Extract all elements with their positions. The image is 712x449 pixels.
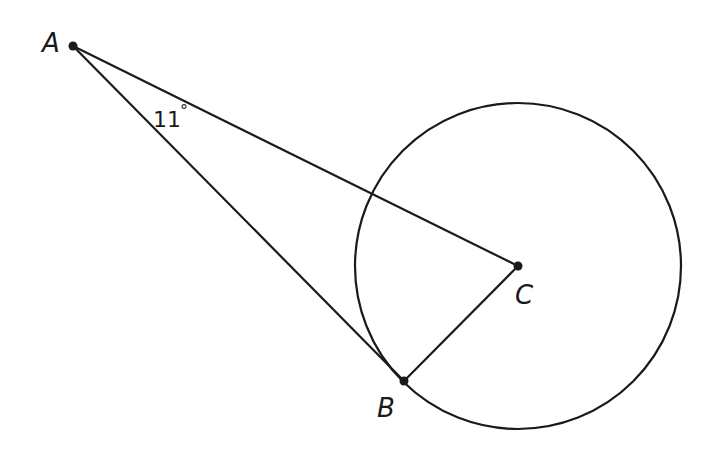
point-a xyxy=(69,42,78,51)
angle-label-a: 11 xyxy=(153,107,181,132)
point-b xyxy=(400,377,409,386)
segment-ac xyxy=(73,46,518,266)
label-a: A xyxy=(40,28,60,58)
segment-bc xyxy=(404,266,518,381)
degree-symbol: ° xyxy=(180,101,188,120)
segment-ab xyxy=(73,46,404,381)
point-c xyxy=(514,262,523,271)
angle-value: 11 xyxy=(153,107,181,132)
label-c: C xyxy=(515,280,534,310)
geometry-diagram: A B C 11 ° xyxy=(0,0,712,449)
label-b: B xyxy=(377,393,395,423)
